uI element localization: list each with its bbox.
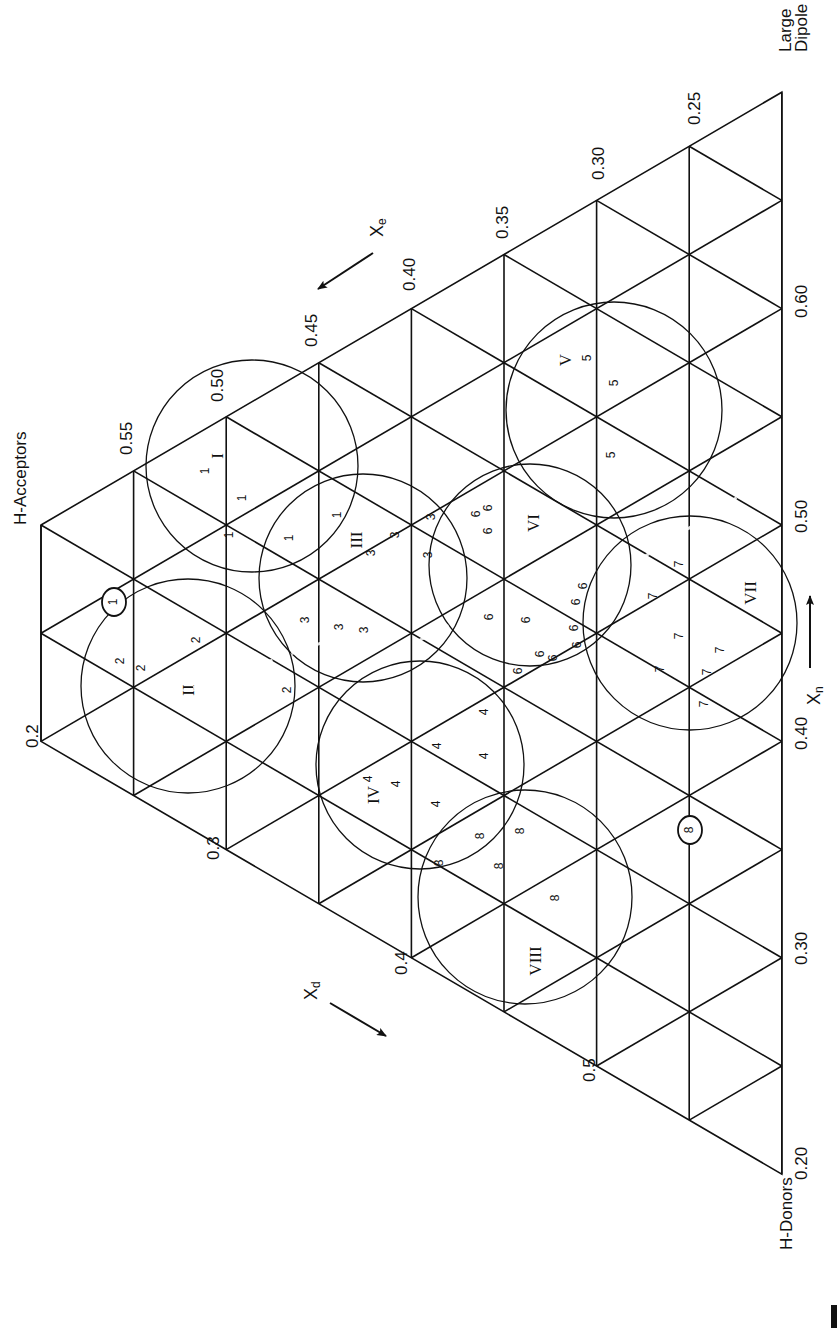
member-number: 7 [653,665,667,672]
member-number: 6 [482,613,496,620]
tick-xe: 0.30 [589,147,608,180]
group-label-i: I [208,453,227,459]
member-number: 5 [604,451,618,458]
group-label-vi: VI [524,514,543,532]
member-number: 7 [713,646,727,653]
member-number: 6 [511,667,525,674]
member-number: 3 [421,551,435,558]
member-number: 7 [672,632,686,639]
xe-label: Xe [367,218,389,237]
xe-arrow-icon [318,253,373,289]
member-number: 3 [364,549,378,556]
member-number: 2 [189,636,203,643]
member-number: 6 [570,641,584,648]
member-number: 4 [361,775,375,782]
tick-xd: 0.4 [392,951,411,975]
vertex-label: Dipole [792,4,811,52]
axis-arrows: XeXdXn [301,218,826,1036]
member-number: 6 [533,650,547,657]
member-number: 8 [513,827,527,834]
tick-xn: 0.20 [792,1147,811,1180]
vertex-label: H-Acceptors [11,431,30,525]
circled-point-1: 1 [106,598,120,605]
member-number: 8 [548,894,562,901]
member-number: 5 [607,379,621,386]
member-number: 7 [700,668,714,675]
group-label-iii: III [347,531,366,548]
member-number: 4 [430,742,444,749]
tick-xe: 0.55 [117,422,136,455]
tick-xe: 0.50 [208,369,227,402]
member-number: 8 [492,862,506,869]
member-number: 2 [113,657,127,664]
member-number: 2 [280,686,294,693]
circled-point-8: 8 [682,826,696,833]
group-circle-iii [259,474,467,682]
tick-xe: 0.25 [685,92,704,125]
grid-line-xe [689,1066,782,1120]
member-number: 6 [546,654,560,661]
tick-xn: 0.60 [792,285,811,318]
triangular-grid [41,92,782,1174]
group-circle-iv [316,661,524,869]
member-number: 1 [222,531,236,538]
member-number: 3 [357,626,371,633]
tick-xn: 0.30 [792,932,811,965]
xd-arrow-icon [330,1003,386,1036]
member-number: 7 [646,592,660,599]
member-number: 6 [481,527,495,534]
tick-xd: 0.5 [580,1058,599,1082]
member-number: 3 [388,531,402,538]
solvent-selectivity-triangle: IIIIIIIVVVIVIIVIII 111112222333333344444… [0,0,837,1328]
member-number: 6 [576,582,590,589]
member-number: 4 [477,708,491,715]
member-number: 1 [282,534,296,541]
member-number: 4 [389,780,403,787]
grid-line-xe [504,850,782,1012]
member-number: 4 [429,800,443,807]
vertex-label: H-Donors [777,1177,796,1250]
member-number: 3 [332,623,346,630]
circled-points: 18 [102,588,702,844]
tick-xe: 0.35 [493,206,512,239]
group-label-iv: IV [364,785,383,804]
grid-line-xd [504,255,782,417]
member-number: 3 [424,513,438,520]
member-number: 6 [569,598,583,605]
tick-xe: 0.40 [400,258,419,291]
member-number: 6 [519,616,533,623]
corner-mark [831,1305,837,1328]
member-number: 5 [580,354,594,361]
tick-xd: 0.3 [204,836,223,860]
group-label-vii: VII [741,581,760,605]
group-label-viii: VIII [526,946,545,976]
member-number: 2 [134,664,148,671]
member-number: 1 [198,467,212,474]
group-label-v: V [556,353,575,366]
grid-line-xd [689,146,782,200]
tick-xn: 0.40 [792,717,811,750]
tick-xn: 0.50 [792,500,811,533]
member-number: 1 [235,494,249,501]
member-number: 3 [298,616,312,623]
member-number: 8 [432,859,446,866]
tick-xd: 0.2 [23,724,42,748]
member-number: 6 [481,504,495,511]
member-number: 7 [672,560,686,567]
grid-line-xd [134,471,782,850]
xd-label: Xd [301,981,323,1000]
member-number: 8 [473,832,487,839]
member-number: 7 [697,700,711,707]
tick-xe: 0.45 [302,314,321,347]
xn-label: Xn [804,686,826,705]
grid-line-xe [134,417,782,796]
member-number: 1 [330,511,344,518]
member-number: 4 [477,752,491,759]
member-number: 6 [567,624,581,631]
